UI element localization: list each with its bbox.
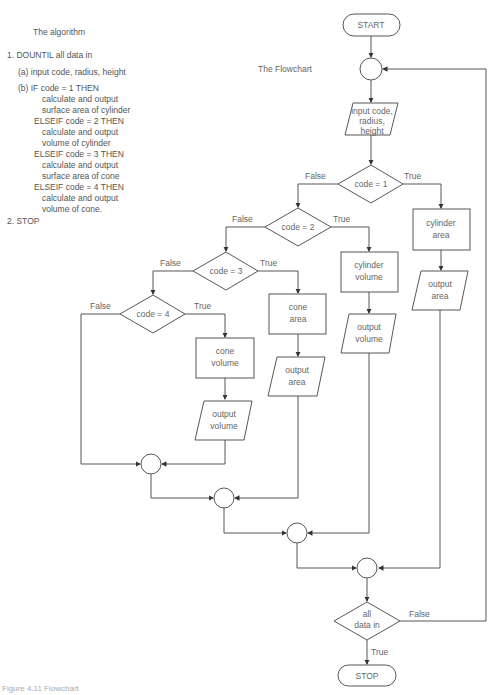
- true-label: True: [260, 258, 277, 268]
- svg-text:height: height: [360, 126, 384, 136]
- decision-all-data-in: all data in: [334, 602, 400, 640]
- junction-connector: [287, 523, 307, 543]
- svg-text:STOP: STOP: [356, 671, 379, 681]
- false-label: False: [305, 171, 326, 181]
- svg-text:code = 4: code = 4: [137, 309, 170, 319]
- svg-text:volume: volume: [210, 421, 238, 431]
- process-cone-area: cone area: [269, 294, 326, 334]
- decision-code-2: code = 2: [265, 208, 331, 246]
- junction-connector: [141, 454, 161, 474]
- process-cone-volume: cone volume: [196, 338, 254, 378]
- false-label: False: [409, 609, 430, 619]
- output-cylinder-volume: output volume: [341, 314, 396, 353]
- svg-text:input code,: input code,: [351, 106, 393, 116]
- svg-text:data in: data in: [354, 620, 380, 630]
- output-cone-volume: output volume: [195, 401, 252, 440]
- output-cone-area: output area: [268, 357, 325, 396]
- true-label: True: [404, 171, 421, 181]
- figure-caption: Figure 4.11 Flowchart: [2, 684, 79, 693]
- svg-text:cone: cone: [289, 302, 308, 312]
- svg-text:code = 1: code = 1: [355, 179, 388, 189]
- false-label: False: [232, 214, 253, 224]
- svg-text:output: output: [357, 322, 381, 332]
- svg-text:volume: volume: [355, 334, 383, 344]
- svg-text:all: all: [363, 609, 372, 619]
- true-label: True: [194, 301, 211, 311]
- svg-text:cylinder: cylinder: [426, 218, 455, 228]
- flowchart: The Flowchart START input code, radius, …: [0, 0, 496, 695]
- svg-text:START: START: [357, 20, 384, 30]
- svg-text:cylinder: cylinder: [354, 260, 383, 270]
- svg-text:output: output: [428, 279, 452, 289]
- junction-connector: [214, 488, 234, 508]
- stop-terminal: STOP: [338, 665, 396, 686]
- svg-text:output: output: [285, 365, 309, 375]
- true-label: True: [333, 214, 350, 224]
- svg-text:code = 2: code = 2: [282, 222, 315, 232]
- flowchart-title: The Flowchart: [258, 64, 312, 74]
- output-cylinder-area: output area: [412, 271, 468, 310]
- input-parallelogram: input code, radius, height: [345, 103, 398, 136]
- svg-text:volume: volume: [211, 358, 239, 368]
- decision-code-1: code = 1: [338, 165, 403, 203]
- svg-text:code = 3: code = 3: [210, 266, 243, 276]
- junction-connector: [357, 558, 377, 578]
- svg-text:output: output: [212, 409, 236, 419]
- process-cylinder-area: cylinder area: [413, 209, 470, 250]
- false-label: False: [160, 258, 181, 268]
- start-terminal: START: [343, 14, 400, 36]
- process-cylinder-volume: cylinder volume: [341, 252, 398, 292]
- decision-code-3: code = 3: [193, 252, 258, 290]
- loop-connector: [360, 58, 382, 80]
- svg-text:area: area: [288, 377, 305, 387]
- svg-text:area: area: [432, 230, 449, 240]
- svg-text:cone: cone: [216, 346, 235, 356]
- svg-text:volume: volume: [355, 272, 383, 282]
- svg-text:radius,: radius,: [359, 116, 385, 126]
- svg-text:area: area: [289, 314, 306, 324]
- false-label: False: [90, 301, 111, 311]
- decision-code-4: code = 4: [120, 295, 185, 333]
- svg-text:area: area: [431, 291, 448, 301]
- true-label: True: [371, 647, 388, 657]
